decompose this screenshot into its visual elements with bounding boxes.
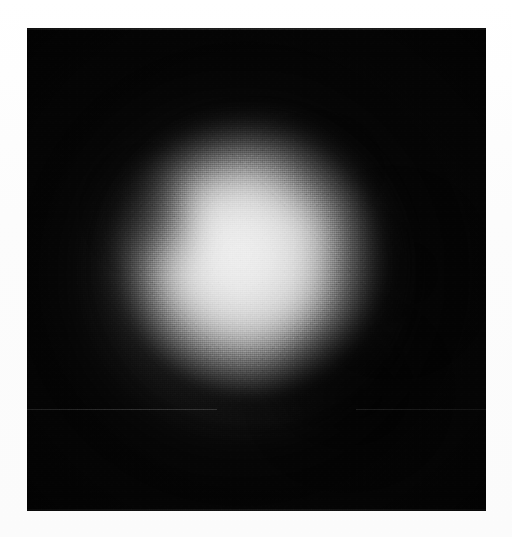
- scan-seam-lower-left: [27, 409, 217, 410]
- dark-lobe-upper-left: [105, 168, 191, 254]
- dark-lobe-lower-right: [272, 320, 422, 460]
- scan-seam-top: [27, 28, 486, 30]
- grayscale-image-panel[interactable]: [27, 28, 486, 511]
- film-grain-texture: [27, 28, 486, 511]
- scan-seam-bottom: [27, 509, 486, 511]
- blob-outer-halo: [35, 58, 465, 498]
- scan-seam-lower-right: [356, 409, 486, 410]
- blob-mottle-left: [127, 208, 197, 268]
- blob-mottle-top: [277, 138, 357, 203]
- dark-lobe-right-edge: [327, 198, 457, 348]
- blob-bright-plateau: [153, 161, 343, 365]
- page-root: [0, 0, 512, 537]
- blob-core: [107, 117, 403, 413]
- corner-vignette: [27, 28, 486, 511]
- halftone-dither-texture: [27, 28, 486, 511]
